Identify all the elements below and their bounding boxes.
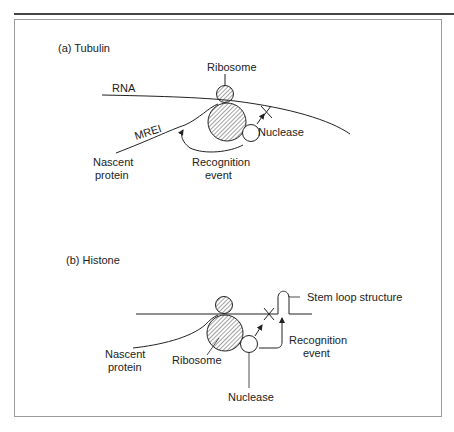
recognition-label-line2: event	[205, 169, 232, 181]
histone-nuclease-circle	[241, 336, 258, 353]
nuclease-label: Nuclease	[258, 126, 304, 138]
histone-ribosome-large	[207, 315, 243, 351]
histone-recognition-line1: Recognition	[289, 334, 347, 346]
histone-nuclease-label: Nuclease	[228, 391, 274, 403]
nascent-label-line1: Nascent	[93, 156, 133, 168]
nascent-protein-chain	[116, 104, 218, 153]
ribosome-label: Ribosome	[207, 61, 257, 73]
rna-label: RNA	[112, 82, 136, 94]
stem-loop-pointer	[288, 296, 300, 297]
ribosome-large-subunit	[208, 103, 246, 141]
histone-recognition-arrow	[259, 318, 282, 348]
ribosome-small-subunit	[217, 86, 234, 103]
panel-b-title: (b) Histone	[66, 254, 120, 266]
histone-nuclease-arrow	[255, 325, 262, 336]
stem-loop-label: Stem loop structure	[307, 291, 402, 303]
nascent-label-line2: protein	[95, 169, 129, 181]
nuclease-circle	[243, 125, 260, 142]
histone-recognition-line2: event	[303, 347, 330, 359]
histone-nascent-line2: protein	[108, 361, 142, 373]
figure-diagram: (a) Tubulin RNA MREI Ribosome Nuclease R…	[0, 0, 454, 432]
histone-nascent-chain	[133, 315, 218, 348]
recognition-label-line1: Recognition	[192, 156, 250, 168]
panel-b-histone: (b) Histone Stem loop structure Nascent …	[66, 254, 402, 403]
panel-a-title: (a) Tubulin	[58, 42, 110, 54]
histone-ribosome-small	[216, 297, 233, 314]
histone-ribosome-label: Ribosome	[172, 354, 222, 366]
nuclease-arrow	[257, 114, 264, 124]
mrei-label: MREI	[133, 122, 163, 142]
histone-nascent-line1: Nascent	[105, 348, 145, 360]
panel-a-tubulin: (a) Tubulin RNA MREI Ribosome Nuclease R…	[58, 42, 350, 181]
